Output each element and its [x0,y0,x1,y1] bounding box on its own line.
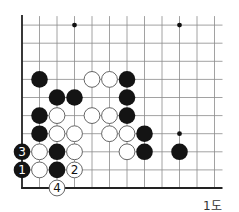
black-stone-icon [66,89,83,106]
black-stone [66,89,83,106]
black-stone-icon [49,162,66,179]
white-stone [32,162,48,178]
white-stone [67,126,83,142]
white-stone-icon [67,144,83,160]
white-stone-move-4: 4 [49,180,65,196]
black-stone [171,144,188,161]
black-stone-icon [49,144,66,161]
black-stone-icon [119,107,136,124]
black-stone [136,144,153,161]
black-stone [31,107,48,124]
black-stone [119,107,136,124]
white-stone-icon [49,108,65,124]
star-point-icon [72,23,77,28]
white-stone [32,144,48,160]
white-stone-icon [84,72,100,88]
white-stone [49,108,65,124]
white-stone [119,126,135,142]
black-stone [136,125,153,142]
move-number-label: 2 [71,163,79,177]
white-stone-icon [102,72,118,88]
white-stone-move-2: 2 [67,162,83,178]
black-stone-move-3: 3 [14,144,31,161]
white-stone [102,72,118,88]
black-stone-move-1: 1 [14,162,31,179]
black-stone [49,89,66,106]
white-stone [84,108,100,124]
go-board-diagram: 3124 [0,0,239,212]
white-stone-icon [119,126,135,142]
white-stone [102,126,118,142]
white-stone-icon [32,162,48,178]
white-stone-icon [119,144,135,160]
white-stone [119,144,135,160]
diagram-caption: 1도 [203,196,222,212]
move-number-label: 3 [18,145,26,159]
white-stone-icon [102,108,118,124]
white-stone-icon [32,144,48,160]
black-stone [31,71,48,88]
black-stone [119,71,136,88]
black-stone-icon [136,125,153,142]
black-stone-icon [136,144,153,161]
white-stone [67,144,83,160]
black-stone-icon [31,125,48,142]
black-stone-icon [119,71,136,88]
black-stone [119,89,136,106]
move-number-label: 1 [18,163,26,177]
white-stone-icon [67,126,83,142]
star-point-icon [177,131,182,136]
black-stone [49,162,66,179]
move-number-label: 4 [53,181,61,195]
white-stone-icon [84,108,100,124]
black-stone [31,125,48,142]
white-stone [84,72,100,88]
black-stone [49,144,66,161]
white-stone-icon [102,126,118,142]
white-stone-icon [49,126,65,142]
black-stone-icon [171,144,188,161]
white-stone [102,108,118,124]
black-stone-icon [119,89,136,106]
black-stone-icon [31,107,48,124]
white-stone [49,126,65,142]
black-stone-icon [31,71,48,88]
black-stone-icon [49,89,66,106]
star-point-icon [177,23,182,28]
